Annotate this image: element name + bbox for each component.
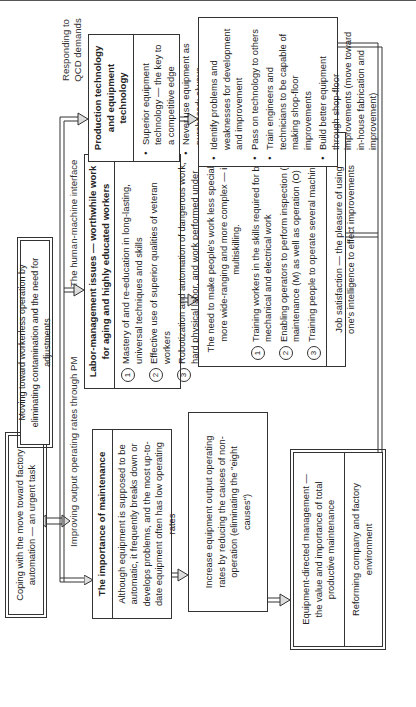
list-item-text: Mastery of and re-education in long-last… xyxy=(120,161,145,364)
maintenance-box-title: The importance of maintenance xyxy=(93,430,113,618)
list-item: 2 Effective use of superior qualities of… xyxy=(148,161,173,382)
labor-management-title: Labor-management issues — worthwhile wor… xyxy=(85,155,115,388)
list-item: • Train engineers and technicians to be … xyxy=(264,22,314,162)
identify-improvements-list: • Identify problems and weaknesses for d… xyxy=(199,18,389,166)
list-item: • Superior equipment technology — the ke… xyxy=(140,39,178,157)
increase-box-text: Increase equipment output operating rate… xyxy=(203,413,253,611)
start-box: Coping with the move toward factory auto… xyxy=(8,435,44,615)
increase-box: Increase equipment output operating rate… xyxy=(188,412,268,612)
list-item: • Build better equipment through shop-fl… xyxy=(317,22,380,162)
bullet-icon: • xyxy=(140,149,178,157)
multiskilling-intro: The need to make people's work less spec… xyxy=(199,133,245,366)
list-item-text: Enabling operators to perform inspection… xyxy=(278,139,303,342)
list-item: • Identify problems and weaknesses for d… xyxy=(208,22,246,162)
list-item-text: Train engineers and technicians to be ca… xyxy=(264,22,314,150)
equipment-management-text: Equipment-directed management — the valu… xyxy=(294,453,344,646)
label-responding-qcd: Responding to QCD demands xyxy=(60,15,84,85)
job-satisfaction-text: Job satisfaction — the pleasure of using… xyxy=(326,133,364,366)
bullet-icon: • xyxy=(208,154,246,162)
multiskilling-box: The need to make people's work less spec… xyxy=(198,132,346,367)
list-item-text: Effective use of superior qualities of v… xyxy=(148,161,173,364)
multiskilling-list: 1 Training workers in the skills require… xyxy=(245,133,326,366)
circled-number: 1 xyxy=(121,368,135,382)
list-item-text: Superior equipment technology — the key … xyxy=(140,39,178,145)
moving-box: Moving toward workerless operation by el… xyxy=(20,240,50,445)
maintenance-box: The importance of maintenance Although e… xyxy=(92,429,172,619)
list-item-text: Training workers in the skills required … xyxy=(250,139,275,342)
bullet-icon: • xyxy=(249,154,262,162)
bullet-icon: • xyxy=(264,154,314,162)
labor-management-box: Labor-management issues — worthwhile wor… xyxy=(84,154,181,389)
list-item-text: Identify problems and weaknesses for dev… xyxy=(208,22,246,150)
list-item: 1 Mastery of and re-education in long-la… xyxy=(120,161,145,382)
production-technology-title: Production technology and equipment tech… xyxy=(89,35,134,161)
list-item: 3 Training people to operate several mac… xyxy=(306,139,321,360)
maintenance-box-text: Although equipment is supposed to be aut… xyxy=(113,430,182,618)
list-item: • Pass on technology to others xyxy=(249,22,262,162)
list-item-text: Training people to operate several machi… xyxy=(306,157,321,342)
circled-number: 1 xyxy=(251,346,265,360)
circled-number: 2 xyxy=(149,368,163,382)
list-item-text: Pass on technology to others xyxy=(249,29,262,150)
circled-number: 3 xyxy=(307,346,321,360)
label-improving-pm: Improving output operating rates through… xyxy=(68,357,80,547)
moving-box-text: Moving toward workerless operation by el… xyxy=(16,241,54,444)
list-item-text: Build better equipment through shop-floo… xyxy=(317,22,380,150)
diagram-canvas: Coping with the move toward factory auto… xyxy=(0,0,416,707)
list-item: 2 Enabling operators to perform inspecti… xyxy=(278,139,303,360)
production-technology-box: Production technology and equipment tech… xyxy=(88,34,180,162)
label-human-machine: The human-machine interface xyxy=(68,160,80,287)
circled-number: 2 xyxy=(279,346,293,360)
identify-improvements-box: • Identify problems and weaknesses for d… xyxy=(198,17,338,167)
equipment-management-box: Equipment-directed management — the valu… xyxy=(293,452,383,647)
list-item: 1 Training workers in the skills require… xyxy=(250,139,275,360)
circled-number: 3 xyxy=(177,368,191,382)
start-box-text: Coping with the move toward factory auto… xyxy=(14,436,39,614)
bullet-icon: • xyxy=(317,154,380,162)
reforming-environment-text: Reforming company and factory environmen… xyxy=(344,453,380,646)
